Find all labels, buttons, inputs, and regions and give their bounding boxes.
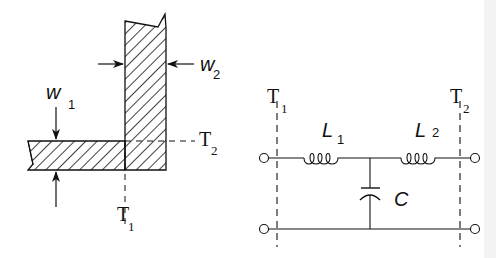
l1-subscript: 1 <box>337 132 344 147</box>
figure-canvas: w 2 w 1 T 2 T 1 <box>0 0 496 258</box>
terminal-top-left <box>260 154 269 163</box>
inductor-l1 <box>304 154 341 165</box>
microstrip-bend: w 2 w 1 T 2 T 1 <box>28 14 220 234</box>
t2-subscript: 2 <box>211 143 218 158</box>
terminal-bottom-left <box>260 225 269 234</box>
horizontal-strip <box>28 141 125 170</box>
terminal-top-right <box>471 154 480 163</box>
l1-label: L <box>322 119 333 141</box>
l2-label: L <box>415 119 426 141</box>
t1-circuit-subscript: 1 <box>281 101 288 116</box>
l2-subscript: 2 <box>432 125 439 140</box>
capacitor-c <box>360 158 380 229</box>
inductor-l2 <box>401 154 438 165</box>
w2-subscript: 2 <box>213 67 220 82</box>
equivalent-circuit <box>260 101 480 247</box>
c-label: C <box>394 188 409 210</box>
t2-label: T <box>199 128 211 150</box>
t2-circuit-label: T <box>450 85 462 107</box>
w1-subscript: 1 <box>68 97 75 112</box>
t1-subscript: 1 <box>128 219 135 234</box>
w1-label: w <box>46 81 62 103</box>
vertical-strip <box>125 14 166 170</box>
t1-circuit-label: T <box>267 85 279 107</box>
terminal-bottom-right <box>471 225 480 234</box>
page-edge <box>484 0 496 258</box>
t2-circuit-subscript: 2 <box>463 101 470 116</box>
